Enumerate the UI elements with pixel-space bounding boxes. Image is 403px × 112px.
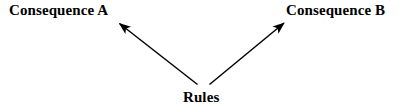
arrow-rules-to-consequence-a xyxy=(120,24,198,85)
node-label-consequence-a: Consequence A xyxy=(9,3,108,18)
diagram-canvas: Consequence A Consequence B Rules xyxy=(0,0,403,112)
node-label-rules: Rules xyxy=(183,90,219,105)
arrow-rules-to-consequence-b xyxy=(210,23,285,85)
node-label-consequence-b: Consequence B xyxy=(286,3,385,18)
